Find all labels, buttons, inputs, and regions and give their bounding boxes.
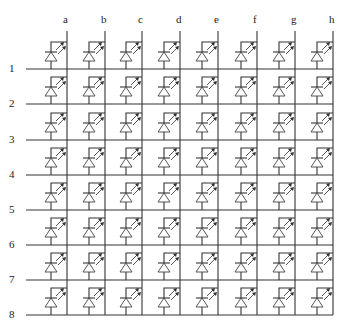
led-h2-icon — [311, 77, 333, 104]
led-b3-icon — [83, 113, 105, 140]
column-label-e: e — [214, 13, 219, 25]
led-f4-icon — [235, 148, 257, 175]
row-label-4: 4 — [9, 168, 15, 180]
led-e3-icon — [196, 113, 218, 140]
column-label-f: f — [253, 13, 257, 25]
led-b4-icon — [83, 148, 105, 175]
column-label-h: h — [329, 13, 335, 25]
led-f8-icon — [235, 288, 257, 315]
led-b1-icon — [83, 42, 105, 69]
led-c1-icon — [120, 42, 142, 69]
led-h5-icon — [311, 183, 333, 210]
led-f2-icon — [235, 77, 257, 104]
led-a4-icon — [45, 148, 67, 175]
led-h8-icon — [311, 288, 333, 315]
led-g5-icon — [273, 183, 295, 210]
led-c4-icon — [120, 148, 142, 175]
column-label-g: g — [291, 13, 297, 25]
led-b6-icon — [83, 218, 105, 245]
row-label-2: 2 — [9, 97, 15, 109]
led-c5-icon — [120, 183, 142, 210]
led-d5-icon — [158, 183, 180, 210]
led-c3-icon — [120, 113, 142, 140]
led-g8-icon — [273, 288, 295, 315]
led-e1-icon — [196, 42, 218, 69]
led-g2-icon — [273, 77, 295, 104]
led-g6-icon — [273, 218, 295, 245]
led-c2-icon — [120, 77, 142, 104]
led-d8-icon — [158, 288, 180, 315]
column-label-c: c — [138, 13, 143, 25]
led-matrix-diagram: abcdefgh 12345678 — [0, 0, 345, 328]
led-d6-icon — [158, 218, 180, 245]
row-label-5: 5 — [9, 203, 15, 215]
led-h4-icon — [311, 148, 333, 175]
row-label-8: 8 — [9, 308, 15, 320]
row-label-6: 6 — [9, 238, 15, 250]
led-g1-icon — [273, 42, 295, 69]
led-a5-icon — [45, 183, 67, 210]
led-f7-icon — [235, 253, 257, 280]
led-b7-icon — [83, 253, 105, 280]
led-d7-icon — [158, 253, 180, 280]
led-g4-icon — [273, 148, 295, 175]
led-a7-icon — [45, 253, 67, 280]
led-g7-icon — [273, 253, 295, 280]
led-h3-icon — [311, 113, 333, 140]
led-b2-icon — [83, 77, 105, 104]
led-f5-icon — [235, 183, 257, 210]
led-e5-icon — [196, 183, 218, 210]
led-a2-icon — [45, 77, 67, 104]
column-labels: abcdefgh — [63, 13, 335, 25]
led-d2-icon — [158, 77, 180, 104]
led-a6-icon — [45, 218, 67, 245]
led-g3-icon — [273, 113, 295, 140]
row-label-3: 3 — [9, 133, 15, 145]
column-label-d: d — [176, 13, 182, 25]
led-e6-icon — [196, 218, 218, 245]
led-e4-icon — [196, 148, 218, 175]
row-label-1: 1 — [9, 62, 15, 74]
led-b8-icon — [83, 288, 105, 315]
led-d1-icon — [158, 42, 180, 69]
led-f1-icon — [235, 42, 257, 69]
led-d4-icon — [158, 148, 180, 175]
led-a8-icon — [45, 288, 67, 315]
led-f3-icon — [235, 113, 257, 140]
led-c8-icon — [120, 288, 142, 315]
led-e8-icon — [196, 288, 218, 315]
led-c7-icon — [120, 253, 142, 280]
led-b5-icon — [83, 183, 105, 210]
column-label-b: b — [101, 13, 107, 25]
led-h6-icon — [311, 218, 333, 245]
led-cells — [45, 42, 333, 315]
row-label-7: 7 — [9, 273, 15, 285]
led-h1-icon — [311, 42, 333, 69]
led-f6-icon — [235, 218, 257, 245]
led-e2-icon — [196, 77, 218, 104]
led-c6-icon — [120, 218, 142, 245]
row-labels: 12345678 — [9, 62, 15, 320]
led-a1-icon — [45, 42, 67, 69]
led-h7-icon — [311, 253, 333, 280]
led-a3-icon — [45, 113, 67, 140]
led-e7-icon — [196, 253, 218, 280]
column-label-a: a — [63, 13, 68, 25]
led-d3-icon — [158, 113, 180, 140]
